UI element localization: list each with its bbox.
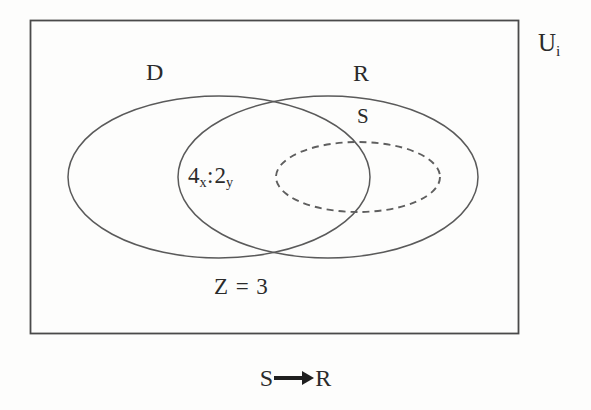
expression-second-subscript: y <box>226 174 233 190</box>
expression-second-base: 2 <box>214 163 226 188</box>
set-ellipse-s <box>276 142 440 212</box>
universe-label: Ui <box>538 30 560 55</box>
set-label-d: D <box>146 60 163 84</box>
caption-left-term: S <box>260 366 273 390</box>
z-value-annotation: Z = 3 <box>214 275 269 298</box>
figure-canvas: Ui D R S 4x:2y Z = 3 SR <box>0 0 591 410</box>
intersection-expression: 4x:2y <box>188 164 233 187</box>
venn-diagram-graphic <box>0 0 591 410</box>
expression-first-subscript: x <box>200 174 207 190</box>
expression-first-base: 4 <box>188 163 200 188</box>
set-label-r: R <box>353 61 369 85</box>
caption-right-term: R <box>315 366 331 390</box>
universe-label-base: U <box>538 29 556 56</box>
universe-rectangle <box>31 21 519 334</box>
universe-label-subscript: i <box>556 42 560 59</box>
figure-caption: SR <box>0 364 591 390</box>
set-label-s: S <box>357 106 369 127</box>
arrow-right-icon <box>274 369 314 387</box>
